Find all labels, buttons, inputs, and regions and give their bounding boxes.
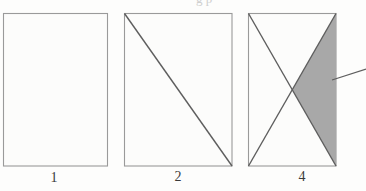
panel-4-group [249,14,366,167]
figure-drawing [0,0,366,191]
panel-1-rectangle [4,14,108,167]
panel-1-label: 1 [39,170,69,186]
panel-4-leader-line [332,69,366,80]
panel-4-label: 4 [287,169,317,185]
figure-container: g p 1 2 4 [0,0,366,191]
panel-2-group [125,14,233,167]
panel-2-label: 2 [163,169,193,185]
panel-1-group [4,14,108,167]
